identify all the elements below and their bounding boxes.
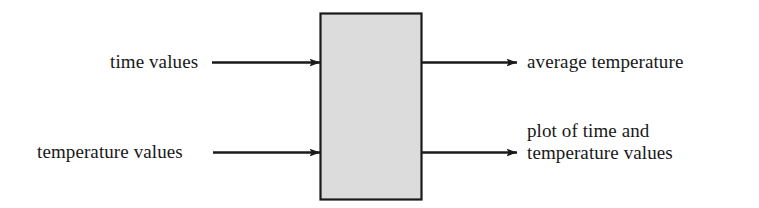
output-label-plot: plot of time and temperature values [527, 120, 673, 164]
input-label-temperature-values: temperature values [37, 141, 183, 163]
output-label-plot-line1: plot of time and [527, 120, 673, 142]
output-label-plot-line2: temperature values [527, 142, 673, 164]
output-label-average-temperature: average temperature [527, 51, 683, 73]
process-diagram: time values temperature values average t… [0, 0, 759, 208]
process-box [321, 14, 422, 200]
input-label-time-values: time values [110, 51, 198, 73]
diagram-canvas [0, 0, 759, 208]
